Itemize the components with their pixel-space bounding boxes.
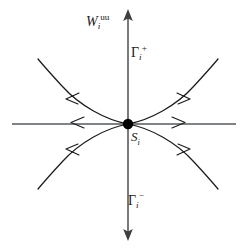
equilibrium-point-dot <box>123 119 133 129</box>
label-lower-branch-sub: i <box>136 200 139 210</box>
phase-portrait-canvas <box>0 0 249 248</box>
flow-arrow-left-icon <box>71 117 84 128</box>
label-equilibrium-point: Si <box>131 130 140 146</box>
trajectory-upper-left-arrow-icon <box>66 93 79 104</box>
trajectory-lower-right-arrow-icon <box>177 144 190 155</box>
label-vertical-axis-sup: uu <box>100 12 109 22</box>
flow-arrow-right-icon <box>172 117 185 128</box>
trajectory-lower-right <box>128 124 218 189</box>
label-upper-branch-sup: + <box>142 43 147 53</box>
trajectory-lower-left <box>38 124 128 189</box>
label-upper-branch-sub: i <box>139 52 142 62</box>
label-lower-branch: Γi− <box>128 192 144 211</box>
label-upper-branch-base: Γ <box>131 45 139 60</box>
phase-portrait-figure: Wiuu Γi+ Γi− Si <box>0 0 249 248</box>
label-vertical-axis-base: W <box>86 14 98 29</box>
label-lower-branch-base: Γ <box>128 193 136 208</box>
label-vertical-axis: Wiuu <box>86 13 109 32</box>
trajectory-lower-left-arrow-icon <box>66 144 79 155</box>
label-vertical-axis-sub: i <box>98 21 101 31</box>
label-lower-branch-sup: − <box>139 191 144 201</box>
trajectory-upper-right-arrow-icon <box>177 93 190 104</box>
trajectory-upper-left <box>38 59 128 124</box>
trajectory-upper-right <box>128 59 218 124</box>
label-upper-branch: Γi+ <box>131 44 147 63</box>
label-equilibrium-sub: i <box>138 137 140 147</box>
